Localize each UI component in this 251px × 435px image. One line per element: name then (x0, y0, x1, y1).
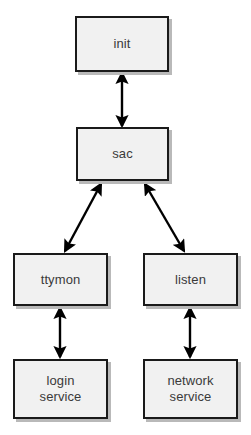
node-listen[interactable]: listen (143, 253, 238, 306)
node-login-service-label: login service (40, 373, 82, 405)
node-network-service-label: network service (167, 373, 213, 405)
node-init-label: init (113, 36, 130, 52)
node-ttymon-label: ttymon (41, 272, 81, 288)
edge-sac-listen (145, 184, 184, 251)
diagram-canvas: init sac ttymon listen login service net… (0, 0, 251, 435)
node-sac[interactable]: sac (76, 127, 169, 181)
node-init[interactable]: init (75, 16, 169, 72)
node-login-service[interactable]: login service (13, 359, 108, 419)
node-sac-label: sac (112, 146, 133, 162)
node-listen-label: listen (175, 272, 206, 288)
node-network-service[interactable]: network service (143, 359, 238, 419)
edge-sac-ttymon (65, 184, 101, 251)
node-ttymon[interactable]: ttymon (13, 253, 108, 306)
